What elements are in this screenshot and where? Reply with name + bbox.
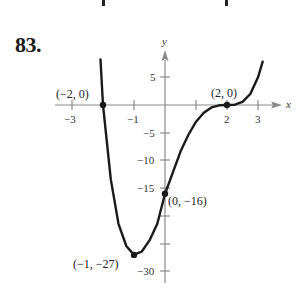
point-root-left	[100, 102, 106, 108]
label-root-left: (−2, 0)	[56, 87, 89, 101]
x-tick-label: −3	[64, 113, 76, 125]
function-graph: x y −3 −1 2 3 5 −5 −10 −15 −30 (−2, 0) (…	[0, 0, 298, 297]
y-tick-label: 5	[150, 71, 156, 83]
x-tick-label: 2	[224, 113, 230, 125]
y-axis-label: y	[161, 35, 167, 47]
y-tick-label: −10	[137, 154, 155, 166]
y-tick-label: −5	[143, 127, 155, 139]
point-root-right	[224, 102, 230, 108]
label-root-right: (2, 0)	[211, 86, 237, 100]
x-axis-label: x	[285, 98, 291, 110]
label-minimum: (−1, −27)	[73, 257, 119, 271]
function-curve	[101, 60, 263, 255]
x-tick-label: −1	[127, 113, 139, 125]
y-tick-label: −15	[137, 182, 155, 194]
x-tick-label: 3	[255, 113, 261, 125]
point-minimum	[131, 252, 137, 258]
label-y-intercept: (0, −16)	[168, 194, 207, 208]
y-axis-arrow-icon	[162, 50, 169, 61]
y-tick-label: −30	[137, 265, 155, 277]
